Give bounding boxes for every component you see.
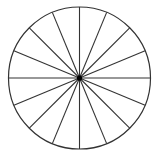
sector-line: [29, 78, 79, 128]
sector-line: [80, 28, 130, 78]
sector-line: [29, 28, 79, 78]
sector-line: [80, 78, 130, 128]
divided-circle-diagram: [0, 0, 158, 157]
center-point: [77, 75, 82, 80]
